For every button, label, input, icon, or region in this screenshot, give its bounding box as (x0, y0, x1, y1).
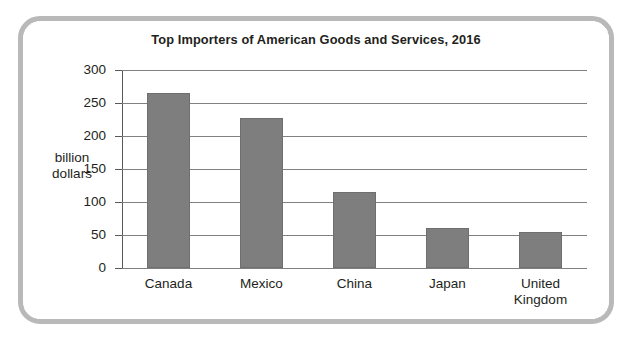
y-tick-mark (115, 268, 122, 269)
y-tick-mark (115, 70, 122, 71)
x-category-label-line: United (494, 276, 587, 292)
gridline (122, 70, 587, 71)
y-tick-label: 0 (66, 261, 106, 275)
y-tick-mark (115, 169, 122, 170)
y-tick-mark (115, 136, 122, 137)
gridline (122, 136, 587, 137)
bar-chart: Top Importers of American Goods and Serv… (0, 0, 632, 343)
bar (333, 192, 376, 268)
y-tick-label: 200 (66, 129, 106, 143)
y-tick-mark (115, 235, 122, 236)
x-category-label: China (308, 276, 401, 292)
y-tick-label: 300 (66, 63, 106, 77)
y-tick-mark (115, 202, 122, 203)
bar (147, 93, 190, 268)
x-category-label-line: Japan (401, 276, 494, 292)
gridline (122, 169, 587, 170)
x-category-label: Mexico (215, 276, 308, 292)
x-category-label-line: China (308, 276, 401, 292)
gridline (122, 103, 587, 104)
x-category-label: Canada (122, 276, 215, 292)
bar (426, 228, 469, 268)
y-tick-label: 150 (66, 162, 106, 176)
gridline (122, 268, 587, 269)
x-category-label: Japan (401, 276, 494, 292)
x-category-label-line: Canada (122, 276, 215, 292)
y-tick-label: 100 (66, 195, 106, 209)
y-tick-label: 50 (66, 228, 106, 242)
y-tick-label: 250 (66, 96, 106, 110)
x-category-label-line: Kingdom (494, 292, 587, 308)
bar (240, 118, 283, 268)
chart-title: Top Importers of American Goods and Serv… (0, 32, 632, 47)
bar (519, 232, 562, 268)
x-category-label-line: Mexico (215, 276, 308, 292)
plot-area (122, 70, 587, 268)
x-category-label: UnitedKingdom (494, 276, 587, 308)
y-tick-mark (115, 103, 122, 104)
